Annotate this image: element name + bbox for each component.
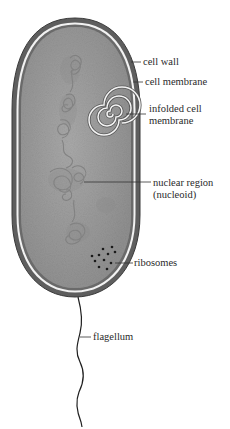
ribosome [114,251,117,254]
ribosome [111,246,114,249]
label-cell-wall: cell wall [143,56,179,67]
label-infolded-line1: infolded cell [149,103,202,114]
bacterium-diagram [0,0,230,429]
label-infolded-line2: membrane [149,115,193,126]
ribosome [94,260,97,263]
label-nuclear-region-line2: (nucleoid) [153,189,196,200]
label-nuclear-region-line1: nuclear region [153,177,213,188]
ribosome [91,255,94,258]
ribosome [98,266,101,269]
ribosome [103,259,106,262]
label-cell-membrane: cell membrane [145,76,207,87]
ribosome [102,248,105,251]
ribosome [98,254,101,257]
ribosome [106,268,109,271]
ribosome [107,253,110,256]
flagellum [77,297,83,427]
label-ribosomes: ribosomes [134,257,177,268]
label-flagellum: flagellum [93,331,133,342]
ribosome [110,262,113,265]
